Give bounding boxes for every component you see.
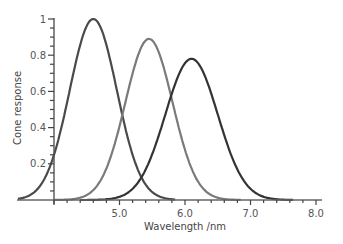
x-ticks: 5.06.07.08.0 [54, 200, 324, 219]
y-tick-label: 1 [40, 14, 46, 25]
cone-response-chart: 5.06.07.08.0 0.20.40.60.81 Wavelength /n… [0, 0, 343, 244]
series-line-m-cone [54, 39, 241, 200]
y-tick-label: 0.8 [30, 50, 46, 61]
x-tick-label: 5.0 [112, 208, 128, 219]
y-axis-title: Cone response [12, 71, 23, 145]
x-tick-label: 7.0 [243, 208, 259, 219]
curves-layer [18, 19, 293, 200]
series-line-s-cone [18, 19, 175, 200]
y-tick-label: 0.6 [30, 86, 46, 97]
x-tick-label: 6.0 [177, 208, 193, 219]
y-tick-label: 0.2 [30, 158, 46, 169]
y-tick-label: 0.4 [30, 122, 46, 133]
x-axis-title: Wavelength /nm [144, 221, 226, 232]
y-ticks: 0.20.40.60.81 [30, 14, 54, 191]
series-line-l-cone [80, 59, 293, 200]
x-tick-label: 8.0 [308, 208, 324, 219]
